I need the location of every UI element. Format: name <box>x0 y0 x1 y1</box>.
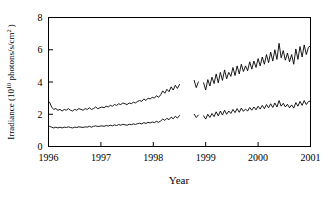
x-tick-label: 1997 <box>91 152 111 163</box>
series-line <box>204 101 311 120</box>
irradiance-time-series-chart: 02468 199619971998199920002001 Year Irra… <box>0 0 330 204</box>
y-tick-label: 4 <box>38 77 43 88</box>
y-tick-label: 2 <box>38 109 43 120</box>
x-axis: 199619971998199920002001 <box>39 142 321 163</box>
series-line <box>204 43 311 90</box>
series-line <box>194 80 198 87</box>
series-line <box>50 84 180 111</box>
upper-irradiance-series <box>50 43 311 111</box>
x-tick-label: 1999 <box>196 152 216 163</box>
y-tick-label: 0 <box>38 141 43 152</box>
series-line <box>50 116 180 128</box>
series-line <box>194 114 198 117</box>
x-tick-label: 1998 <box>143 152 163 163</box>
figure-caption-faint <box>8 193 318 201</box>
y-tick-label: 6 <box>38 44 43 55</box>
lower-irradiance-series <box>50 101 311 128</box>
y-axis-title: Irradiance (1010 photons/s/cm2 ) <box>5 24 17 140</box>
y-axis: 02468 <box>38 12 54 152</box>
x-axis-title: Year <box>169 174 190 186</box>
x-tick-label: 1996 <box>39 152 59 163</box>
x-tick-label: 2001 <box>301 152 321 163</box>
x-tick-label: 2000 <box>248 152 268 163</box>
y-tick-label: 8 <box>38 12 43 23</box>
figure-container: 02468 199619971998199920002001 Year Irra… <box>0 0 330 204</box>
data-series-group <box>50 43 311 128</box>
